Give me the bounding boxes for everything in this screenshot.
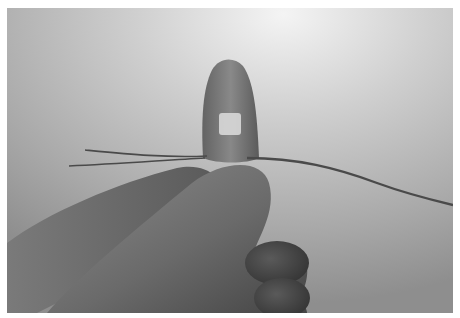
dome-highlight (219, 113, 241, 135)
photo-illustration (7, 8, 453, 313)
photo (7, 8, 453, 313)
